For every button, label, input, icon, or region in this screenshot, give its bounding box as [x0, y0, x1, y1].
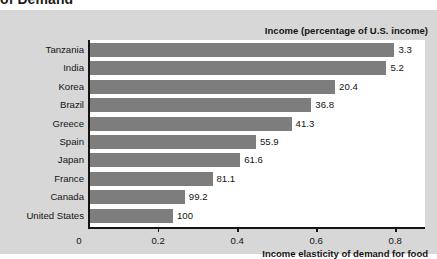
x-axis-tick-label: 0.2: [151, 235, 164, 246]
category-labels: TanzaniaIndiaKoreaBrazilGreeceSpainJapan…: [0, 40, 84, 228]
bar-value-label: 99.2: [189, 190, 208, 204]
category-label: Japan: [58, 153, 84, 167]
category-label: India: [63, 61, 84, 75]
x-axis-tick: [158, 227, 159, 232]
bar-row: 36.8: [90, 98, 426, 112]
x-axis-title: Income elasticity of demand for food: [262, 248, 428, 259]
bar-row: 61.6: [90, 153, 426, 167]
x-axis-tick: [395, 227, 396, 232]
bar-value-label: 100: [177, 209, 193, 223]
bar: [90, 172, 213, 186]
bar-row: 41.3: [90, 117, 426, 131]
bar-value-label: 81.1: [217, 172, 236, 186]
bar: [90, 61, 386, 75]
bar-value-label: 55.9: [260, 135, 279, 149]
bar-row: 81.1: [90, 172, 426, 186]
category-label: France: [54, 172, 84, 186]
x-axis-tick-label: 0.6: [310, 235, 323, 246]
bar: [90, 153, 240, 167]
bar: [90, 190, 185, 204]
x-axis-tick-label: 0: [76, 235, 81, 246]
value-column-header: Income (percentage of U.S. income): [265, 25, 428, 36]
bar: [90, 117, 292, 131]
chart-panel: Income (percentage of U.S. income) Tanza…: [0, 10, 437, 254]
bar-row: 3.3: [90, 43, 426, 57]
bar-row: 100: [90, 209, 426, 223]
bar: [90, 135, 256, 149]
bar: [90, 98, 311, 112]
bar-row: 55.9: [90, 135, 426, 149]
x-axis-tick: [316, 227, 317, 232]
bar-row: 20.4: [90, 80, 426, 94]
x-axis-tick-label: 0.4: [230, 235, 243, 246]
bar-value-label: 20.4: [339, 80, 358, 94]
figure-caption-clipped: of Demand: [0, 0, 200, 7]
category-label: Greece: [53, 117, 84, 131]
x-axis-tick-label: 0.8: [389, 235, 402, 246]
bar-value-label: 36.8: [315, 98, 334, 112]
bar: [90, 209, 173, 223]
bar-value-label: 3.3: [398, 43, 411, 57]
category-label: Tanzania: [46, 43, 84, 57]
bar: [90, 80, 335, 94]
bar: [90, 43, 394, 57]
category-label: Spain: [59, 135, 84, 149]
bar-row: 99.2: [90, 190, 426, 204]
category-label: Korea: [58, 80, 84, 94]
category-label: Brazil: [60, 98, 84, 112]
bar-value-label: 5.2: [390, 61, 403, 75]
bar-row: 5.2: [90, 61, 426, 75]
bar-value-label: 61.6: [244, 153, 263, 167]
bar-value-label: 41.3: [296, 117, 315, 131]
bar-series: 3.35.220.436.841.355.961.681.199.2100: [90, 40, 426, 228]
x-axis-tick: [237, 227, 238, 232]
category-label: Canada: [50, 190, 84, 204]
category-label: United States: [26, 209, 84, 223]
